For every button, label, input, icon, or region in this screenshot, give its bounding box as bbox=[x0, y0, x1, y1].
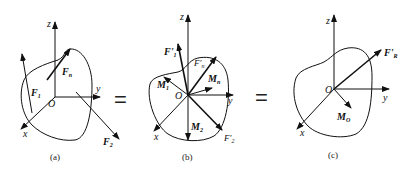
force-Fn-label: Fn bbox=[61, 66, 73, 78]
force-F1-label: F1 bbox=[30, 87, 41, 99]
caption-c: (c) bbox=[328, 150, 338, 160]
resultant-force-FR-arrow bbox=[334, 50, 381, 89]
force-F1-prime-arrow bbox=[178, 44, 188, 95]
caption-b: (b) bbox=[182, 152, 193, 162]
resultant-moment-MO-label: MO bbox=[336, 111, 351, 123]
z-axis-label: z bbox=[46, 18, 51, 29]
force-system-reduction-diagram: z y x O F1 Fn F2 (a) = z y x O F'1 F'n F… bbox=[0, 0, 410, 175]
x-axis-label: x bbox=[22, 128, 28, 139]
origin-label: O bbox=[325, 84, 332, 95]
force-F2-arrow bbox=[76, 92, 119, 139]
x-axis bbox=[154, 95, 188, 131]
equals-sign-2: = bbox=[255, 85, 268, 110]
caption-a: (a) bbox=[50, 152, 60, 162]
moment-M1-label: M1 bbox=[156, 79, 169, 91]
moment-M2-label: M2 bbox=[190, 121, 203, 133]
y-axis-label: y bbox=[382, 92, 388, 103]
force-F2-label: F2 bbox=[102, 136, 113, 148]
z-axis-label: z bbox=[325, 15, 330, 26]
rigid-body-outline bbox=[149, 57, 228, 140]
force-Fn-prime-label: F'n bbox=[193, 58, 204, 69]
moment-Mn-label: Mn bbox=[207, 73, 221, 85]
resultant-moment-MO-arrow bbox=[334, 89, 351, 108]
y-axis-label: y bbox=[227, 95, 233, 106]
panel-a: z y x O F1 Fn F2 (a) bbox=[21, 18, 119, 162]
panel-b: z y x O F'1 F'n F'2 M1 Mn M2 (b) bbox=[149, 11, 234, 162]
origin-label: O bbox=[175, 90, 182, 101]
resultant-force-FR-label: F'R bbox=[383, 47, 397, 59]
z-axis-label: z bbox=[179, 11, 184, 22]
equals-sign-1: = bbox=[114, 87, 127, 112]
y-axis-label: y bbox=[95, 83, 101, 94]
x-axis-label: x bbox=[299, 127, 305, 138]
force-F2-prime-label: F'2 bbox=[223, 133, 234, 144]
force-F1-arrow bbox=[22, 54, 32, 113]
panel-c: z y x O F'R MO (c) bbox=[294, 15, 398, 160]
origin-label: O bbox=[48, 98, 55, 109]
x-axis-label: x bbox=[153, 131, 159, 142]
force-F1-prime-label: F'1 bbox=[163, 46, 176, 58]
x-axis bbox=[297, 89, 334, 129]
rigid-body-outline bbox=[294, 48, 372, 137]
